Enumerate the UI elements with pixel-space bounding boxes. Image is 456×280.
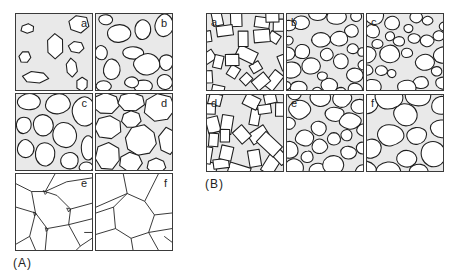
grain-shape [320,48,333,61]
grain-shape [347,68,363,82]
grain-shape [227,162,251,171]
grain-drawing [287,14,363,90]
panel-b-e: e [286,94,364,172]
grain-shape [96,46,107,60]
grain-shape [397,150,417,167]
grain-shape [367,47,376,63]
grain-shape [22,72,48,83]
grain-shape [99,15,113,25]
grain-shape [239,72,252,85]
grain-shape [433,31,443,41]
grain-shape [48,34,63,59]
grain-shape [46,94,71,114]
grain-shape [339,113,361,129]
grain-shape [431,67,441,76]
grain-shape [220,129,229,142]
grain-shape [61,153,79,169]
grain-shape [66,58,77,77]
grain-shape [103,59,120,79]
grain-shape [347,44,358,54]
grain-shape [53,123,77,148]
grain-shape [355,165,363,171]
grain-shape [439,22,443,31]
grain-drawing [287,95,363,171]
grain-shape [420,35,434,47]
grain-shape [21,24,34,34]
grain-shape [96,81,111,90]
grain-shape [207,71,213,84]
grain-shape [393,37,404,46]
grain-shape [358,48,363,56]
grain-shape [247,149,261,167]
grain-shape [351,14,362,21]
grain-shape [341,130,352,141]
grain-drawing [207,14,283,90]
grain-shape [385,32,394,41]
grain-shape [96,143,119,170]
grain-shape [295,130,313,146]
grain-shape [407,128,427,145]
panel-b-a: a [206,13,284,91]
grain-shape [323,156,344,171]
grain-shape [232,125,251,144]
grain-shape [327,133,340,145]
grain-shape [207,146,213,164]
grain-shape [348,83,362,90]
grain-shape [312,139,328,154]
grain-shape [367,79,381,90]
grain-shape [301,151,313,163]
panel-b-f: f [366,94,444,172]
panel-label: b [161,18,167,29]
grain-shape [421,142,443,167]
panel-a-f: f [95,173,173,251]
panel-label: d [161,98,167,109]
grain-shape [408,34,420,44]
panel-a-a: a [15,13,93,91]
grain-shape [287,141,298,158]
grain-shape [367,139,381,158]
grain-shape [351,99,363,113]
grain-shape [17,140,34,158]
grain-shape [376,162,400,171]
grain-shape [290,81,307,90]
grain-shape [118,94,145,111]
panel-a-d: d [95,93,173,171]
grain-shape [157,74,172,89]
grain-shape [238,31,248,46]
panel-label: e [81,178,87,189]
grain-shape [79,162,92,170]
grain-shape [367,65,373,75]
grain-shape [263,95,277,105]
grain-shape [287,159,303,171]
panel-b-c: c [366,13,444,91]
grain-shape [17,94,40,110]
grain-shape [341,146,357,159]
grain-shape [309,14,327,20]
panel-label: a [211,17,217,28]
grain-shape [96,116,121,139]
grain-shape [398,80,416,90]
panel-label: c [82,98,88,109]
grain-shape [312,33,331,47]
grain-shape [432,96,443,114]
grain-background [96,174,172,250]
grain-shape [385,16,400,29]
grain-shape [225,54,239,66]
grain-shape [122,111,142,128]
grain-shape [208,133,218,147]
panel-a-c: c [15,93,93,171]
grain-shape [377,125,403,146]
grain-shape [211,84,225,90]
panel-label: a [81,18,87,29]
grain-drawing [207,95,283,171]
grain-shape [77,77,87,90]
grain-shape [275,103,283,117]
grain-shape [107,25,130,43]
grain-shape [311,121,326,135]
grain-shape [375,66,387,76]
grain-drawing [367,14,443,90]
panel-label: c [371,17,377,28]
group-caption-a: (A) [13,256,32,270]
grain-shape [401,48,412,57]
grain-shape [356,142,363,154]
